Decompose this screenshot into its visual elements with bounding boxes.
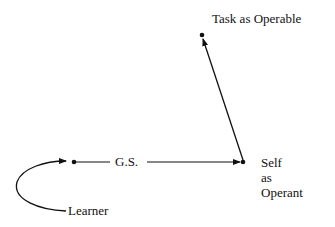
operant-label: Operant [261, 185, 303, 200]
self-label: Self [261, 155, 282, 170]
gs-label: G.S. [115, 154, 138, 169]
learner-label: Learner [68, 203, 108, 218]
as-label: as [261, 170, 272, 185]
self-node-dot [241, 160, 246, 165]
task-as-operable-label: Task as Operable [212, 11, 301, 26]
self-to-task-arrow [203, 39, 243, 160]
task-node-dot [200, 33, 205, 38]
learner-curve-arrow [16, 161, 66, 211]
